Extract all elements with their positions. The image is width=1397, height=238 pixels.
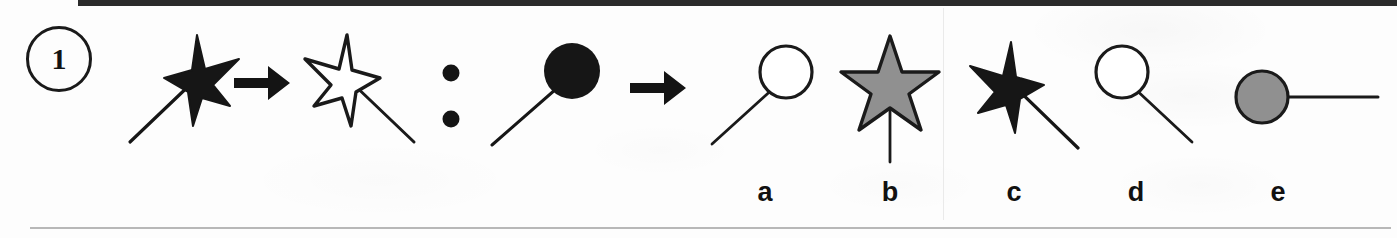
- option-c-label[interactable]: c: [994, 177, 1034, 208]
- option-d-figure[interactable]: [1092, 42, 1208, 150]
- stem-figure-c-black-circle-wand: [484, 40, 608, 152]
- stem-figure-a-black-star-wand: [118, 32, 248, 150]
- option-e-label[interactable]: e: [1258, 177, 1298, 208]
- white-star-wand-down-right-icon: [296, 32, 426, 150]
- option-d-label[interactable]: d: [1116, 177, 1156, 208]
- stem-arrow-2: [628, 65, 690, 111]
- option-c-figure[interactable]: [962, 38, 1090, 156]
- option-b-figure[interactable]: [838, 30, 942, 170]
- black-star-wand-down-left-icon: [118, 32, 248, 150]
- option-e-figure[interactable]: [1230, 66, 1382, 130]
- stem-options-divider: [943, 8, 944, 220]
- right-arrow-icon: [232, 60, 294, 106]
- colon-icon: [440, 64, 462, 132]
- bottom-divider-rule: [30, 227, 1391, 229]
- stem-arrow-1: [232, 60, 294, 106]
- top-divider-rule: [78, 0, 1397, 6]
- option-a-figure[interactable]: [706, 42, 822, 152]
- white-circle-wand-down-right-icon: [1092, 42, 1208, 150]
- gray-circle-wand-horizontal-icon: [1230, 66, 1382, 130]
- gray-star-wand-vertical-icon: [838, 30, 942, 170]
- option-a-label[interactable]: a: [745, 177, 785, 208]
- option-b-label[interactable]: b: [870, 177, 910, 208]
- white-circle-wand-down-left-icon: [706, 42, 822, 152]
- black-star-wand-down-right-icon: [962, 38, 1090, 156]
- item-number-badge: 1: [26, 26, 92, 92]
- stem-colon-separator: [440, 64, 462, 132]
- stem-figure-b-white-star-wand: [296, 32, 426, 150]
- right-arrow-icon: [628, 65, 690, 111]
- black-circle-wand-down-left-icon: [484, 40, 608, 152]
- test-item-page: 1: [0, 0, 1397, 238]
